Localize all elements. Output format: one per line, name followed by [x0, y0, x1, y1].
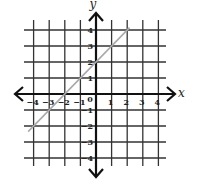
- y-tick-label: −1: [81, 105, 93, 115]
- x-tick-label: −3: [42, 97, 55, 107]
- y-tick-label: 3: [87, 41, 93, 51]
- y-tick-label: 4: [87, 25, 93, 35]
- y-tick-label: −2: [81, 121, 93, 131]
- x-tick-label: 4: [155, 97, 161, 107]
- y-tick-label: 1: [87, 73, 93, 83]
- plotted-line: [28, 28, 129, 132]
- origin-label: 0: [87, 94, 93, 104]
- x-tick-label: 2: [123, 97, 129, 107]
- x-tick-label: −4: [26, 97, 39, 107]
- axes: [15, 13, 175, 177]
- y-tick-label: −4: [81, 153, 94, 163]
- x-tick-label: 1: [108, 97, 114, 107]
- y-axis-label: y: [89, 0, 97, 11]
- x-tick-label: 3: [139, 97, 145, 107]
- x-tick-label: −2: [58, 97, 70, 107]
- coordinate-plane: −4−3−2−112344321−1−2−3−4 0 x y: [0, 0, 198, 187]
- y-tick-label: 2: [87, 57, 93, 67]
- y-tick-label: −3: [81, 137, 94, 147]
- x-axis-label: x: [178, 86, 185, 100]
